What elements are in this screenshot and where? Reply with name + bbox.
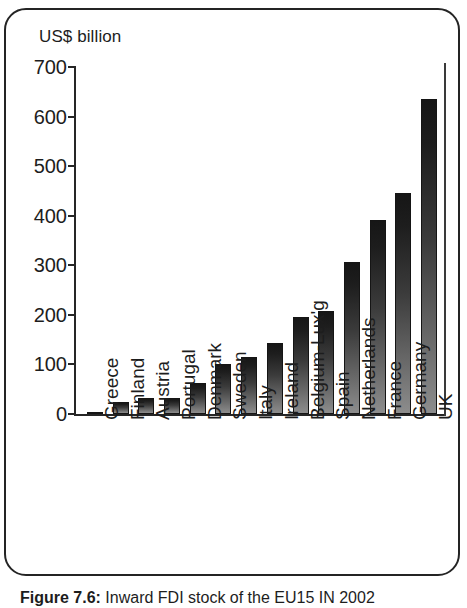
figure-root: US$ billion 0100200300400500600700 Greec… bbox=[0, 0, 467, 608]
x-axis-category-label: Germany bbox=[410, 342, 429, 420]
x-axis-label-slot: Sweden bbox=[211, 420, 237, 575]
x-axis-label-slot: Finland bbox=[108, 420, 134, 575]
y-axis-tick-label: 0 bbox=[56, 404, 67, 424]
x-axis-category-label: Belgium-Lux'g bbox=[308, 300, 327, 420]
x-axis-label-slot: Belgium-Lux'g bbox=[288, 420, 314, 575]
x-axis-category-label: Finland bbox=[128, 358, 147, 420]
x-axis-category-label: Netherlands bbox=[359, 318, 378, 420]
y-axis-tick-mark bbox=[68, 215, 76, 217]
x-axis-category-label: France bbox=[385, 361, 404, 420]
figure-caption: Figure 7.6: Inward FDI stock of the EU15… bbox=[20, 588, 460, 607]
x-axis-category-label: Ireland bbox=[282, 362, 301, 420]
x-axis-category-label: UK bbox=[436, 394, 455, 420]
y-axis-tick-label: 100 bbox=[34, 354, 67, 374]
y-axis-tick-mark bbox=[68, 314, 76, 316]
figure-caption-label: Figure 7.6: bbox=[20, 589, 101, 606]
x-axis-label-slot: UK bbox=[416, 420, 442, 575]
x-axis-label-slot: France bbox=[365, 420, 391, 575]
x-axis-category-label: Spain bbox=[333, 371, 352, 420]
x-axis-label-slot: Italy bbox=[236, 420, 262, 575]
x-axis-category-labels: GreeceFinlandAustriaPortugalDenmarkSwede… bbox=[76, 420, 446, 575]
y-axis-tick-label: 400 bbox=[34, 206, 67, 226]
y-axis-tick-label: 300 bbox=[34, 255, 67, 275]
x-axis-category-label: Denmark bbox=[205, 343, 224, 420]
y-axis-tick-label: 700 bbox=[34, 57, 67, 77]
y-axis-tick-label: 600 bbox=[34, 107, 67, 127]
y-axis-tick-mark bbox=[68, 165, 76, 167]
x-axis-label-slot: Portugal bbox=[159, 420, 185, 575]
x-axis-category-label: Austria bbox=[153, 361, 172, 420]
x-axis-label-slot: Greece bbox=[82, 420, 108, 575]
y-axis-unit-label: US$ billion bbox=[39, 27, 121, 47]
x-axis-category-label: Portugal bbox=[179, 349, 198, 420]
x-axis-label-slot: Spain bbox=[313, 420, 339, 575]
y-axis-tick-mark bbox=[68, 66, 76, 68]
y-axis-tick-mark bbox=[68, 264, 76, 266]
x-axis-label-slot: Netherlands bbox=[339, 420, 365, 575]
y-axis-tick-mark bbox=[68, 363, 76, 365]
x-axis-label-slot: Austria bbox=[133, 420, 159, 575]
figure-caption-text: Inward FDI stock of the EU15 IN 2002 bbox=[101, 589, 375, 606]
y-axis-tick-label: 200 bbox=[34, 305, 67, 325]
y-axis-tick-label: 500 bbox=[34, 156, 67, 176]
x-axis-category-label: Italy bbox=[256, 385, 275, 420]
x-axis-label-slot: Denmark bbox=[185, 420, 211, 575]
y-axis-tick-mark bbox=[68, 413, 76, 415]
y-axis-tick-mark bbox=[68, 116, 76, 118]
x-axis-category-label: Sweden bbox=[230, 351, 249, 420]
figure-border-box: US$ billion 0100200300400500600700 Greec… bbox=[4, 8, 460, 576]
x-axis-category-label: Greece bbox=[102, 358, 121, 420]
x-axis-label-slot: Ireland bbox=[262, 420, 288, 575]
x-axis-label-slot: Germany bbox=[391, 420, 417, 575]
